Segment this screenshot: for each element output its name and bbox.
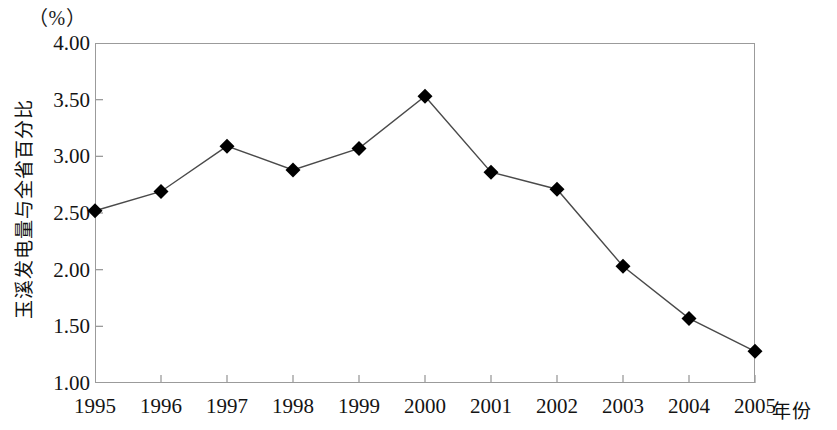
x-axis-title: 年份: [772, 396, 812, 423]
x-axis-tick-labels: 1995 1996 1997 1998 1999 2000 2001 2002 …: [0, 0, 837, 430]
chart-figure: （%） 玉溪发电量与全省百分比 4.00 3.50 3.00 2.50 2.00…: [0, 0, 837, 430]
